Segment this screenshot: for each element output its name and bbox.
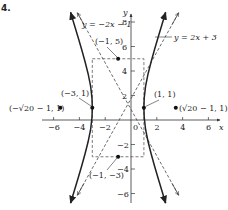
hyperbola-figure: 4. x y 0 −6 −4 −2 2 4 6 8 6 [0, 0, 228, 210]
y-tick-label: 4 [122, 67, 127, 76]
asymptote-positive-label: y = 2x + 3 [173, 33, 217, 42]
hyperbola-right-branch [144, 13, 166, 204]
x-tick-label: 2 [155, 123, 160, 132]
point-right-focus [174, 106, 178, 110]
figure-number: 4. [1, 3, 11, 13]
y-tick-label: 2 [122, 92, 127, 101]
origin-label: 0 [133, 123, 138, 132]
label-left-focus: (−√20 − 1, 1) [9, 104, 64, 113]
label-bottom-vertex: (−1, −3) [89, 171, 124, 180]
x-ticks: −6 −4 −2 2 4 6 [48, 117, 211, 132]
x-tick-label: 4 [180, 123, 185, 132]
y-tick-label: −6 [117, 190, 129, 199]
x-tick-label: −4 [74, 123, 86, 132]
y-axis-label: y [122, 8, 128, 17]
x-axis-label: x [219, 123, 224, 132]
label-top-vertex: (−1, 5) [95, 37, 123, 46]
point-top-vertex [116, 57, 120, 61]
point-right-vertex [142, 106, 146, 110]
y-tick-label: −2 [117, 141, 129, 150]
asymptote-negative-label: y = −2x − 1 [81, 20, 132, 29]
label-right-vertex: (1, 1) [154, 90, 176, 99]
label-right-focus: (√20 − 1, 1) [179, 104, 228, 113]
point-left-vertex [90, 106, 94, 110]
x-tick-label: 6 [206, 123, 211, 132]
label-left-vertex: (−3, 1) [61, 89, 89, 98]
x-tick-label: −6 [48, 123, 60, 132]
x-tick-label: −2 [99, 123, 111, 132]
